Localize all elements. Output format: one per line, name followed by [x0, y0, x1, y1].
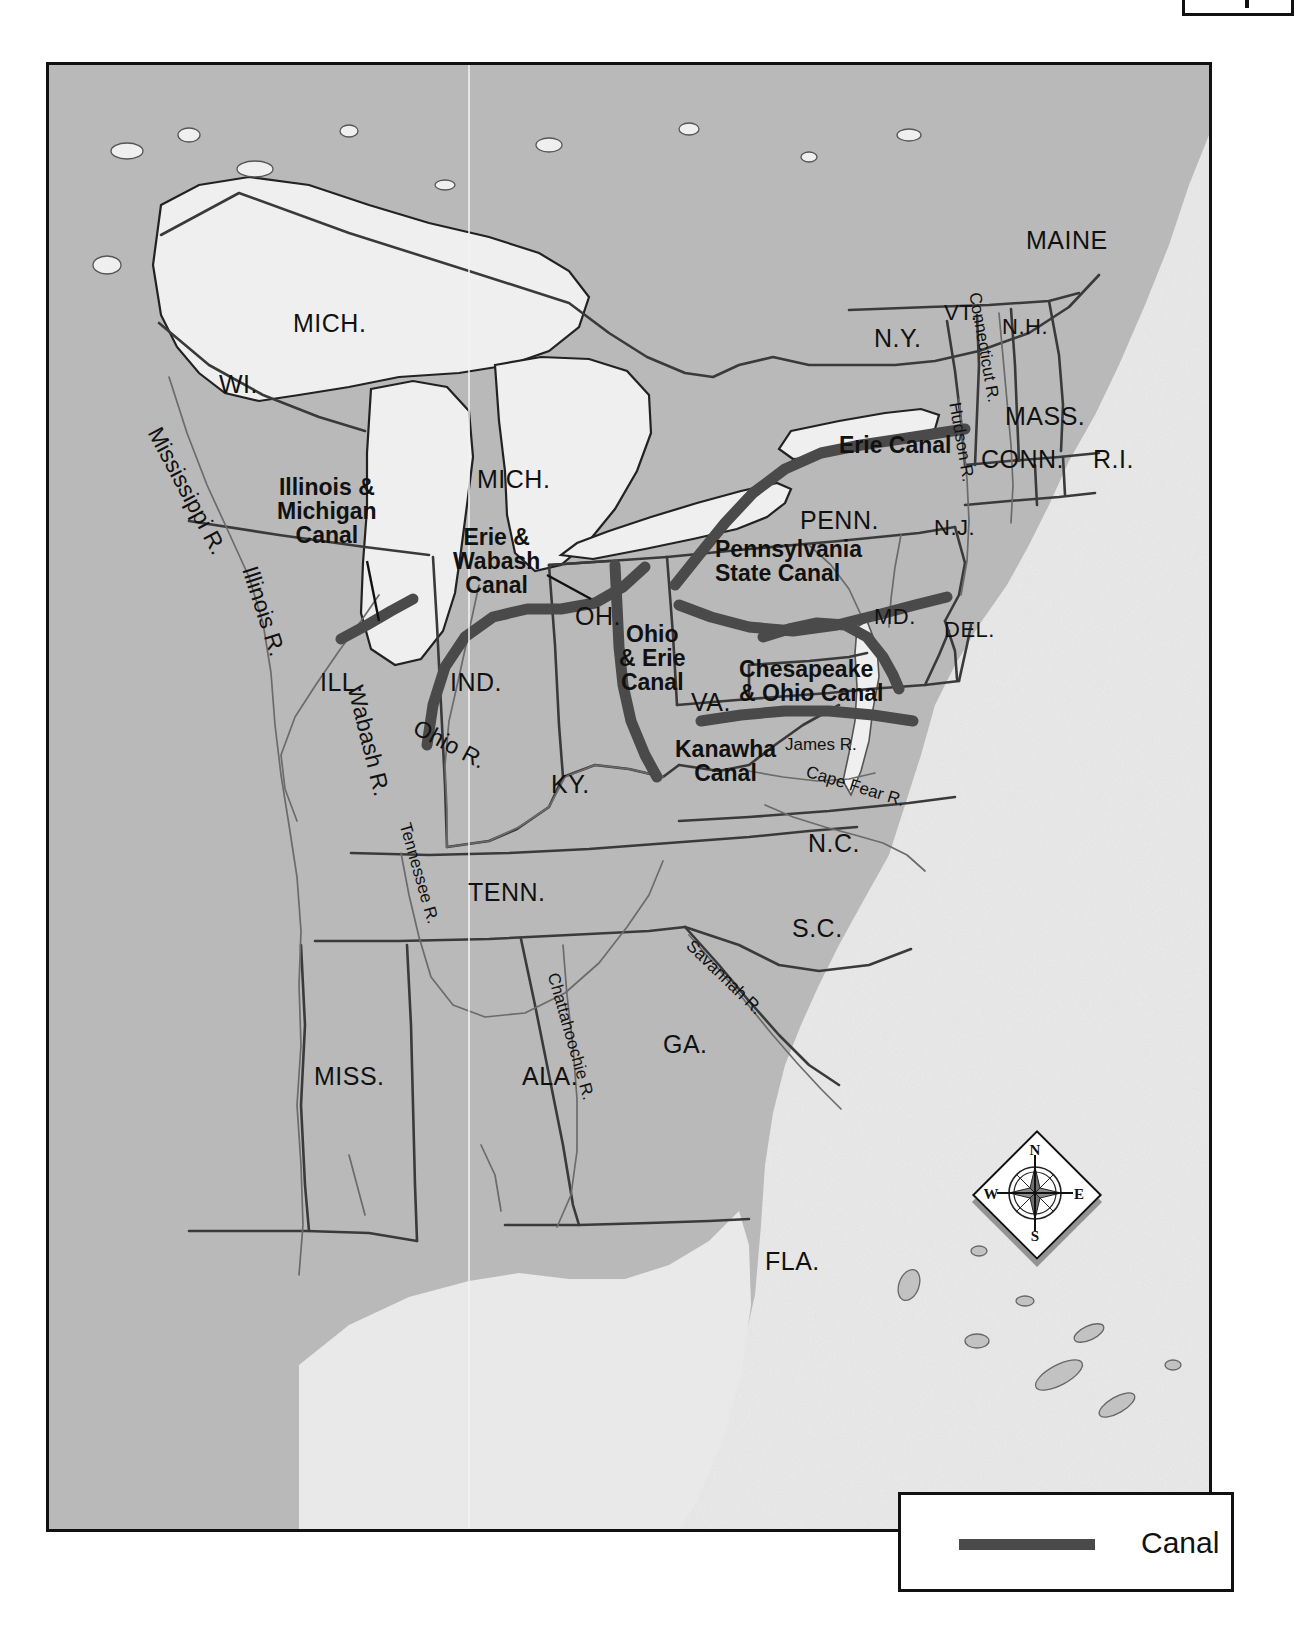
state-label-sc: S.C. — [792, 915, 843, 941]
state-label-tenn: TENN. — [468, 879, 546, 905]
state-label-wi: WI. — [219, 371, 258, 397]
state-label-mich-up: MICH. — [293, 310, 366, 336]
map-legend: Canal — [898, 1492, 1234, 1592]
top-partial-box-tick — [1245, 0, 1249, 8]
state-label-ind: IND. — [450, 669, 502, 695]
top-partial-box — [1182, 0, 1294, 16]
canal-label-illinois-michigan: Illinois &MichiganCanal — [277, 475, 377, 547]
compass-label-north: N — [1030, 1142, 1041, 1158]
state-label-conn: CONN. — [981, 446, 1064, 472]
state-label-oh: OH. — [575, 603, 621, 629]
state-label-fla: FLA. — [765, 1248, 820, 1274]
map-canvas — [49, 65, 1209, 1529]
state-label-nj: N.J. — [934, 516, 975, 539]
canal-label-kanawha: KanawhaCanal — [675, 737, 776, 785]
canal-label-chesapeake-ohio: Chesapeake& Ohio Canal — [739, 657, 883, 705]
compass-label-south: S — [1031, 1228, 1039, 1244]
map-frame: MAINE VT. N.H. N.Y. MASS. CONN. R.I. MIC… — [46, 62, 1212, 1532]
state-label-mass: MASS. — [1005, 403, 1085, 429]
state-label-miss: MISS. — [314, 1063, 385, 1089]
compass-graphic: N S E W — [979, 1137, 1103, 1261]
state-label-del: DEL. — [944, 618, 995, 641]
state-label-penn: PENN. — [800, 507, 879, 533]
state-label-ky: KY. — [551, 771, 590, 797]
state-label-ga: GA. — [663, 1031, 708, 1057]
legend-label-canal: Canal — [1141, 1526, 1219, 1560]
compass-label-east: E — [1074, 1186, 1084, 1202]
state-label-mich-lp: MICH. — [477, 466, 550, 492]
canal-label-erie: Erie Canal — [839, 433, 952, 457]
state-label-ri: R.I. — [1093, 446, 1134, 472]
legend-swatch-canal — [959, 1539, 1095, 1550]
state-label-md: MD. — [874, 605, 916, 628]
state-label-nh: N.H. — [1002, 315, 1048, 338]
river-label-james: James R. — [785, 736, 857, 754]
compass-rose: N S E W — [979, 1137, 1103, 1261]
canal-label-erie-wabash: Erie &WabashCanal — [453, 525, 540, 597]
compass-label-west: W — [984, 1186, 999, 1202]
state-label-nc: N.C. — [808, 830, 860, 856]
state-label-ny: N.Y. — [874, 325, 921, 351]
state-label-va: VA. — [691, 689, 731, 715]
state-label-maine: MAINE — [1026, 227, 1108, 253]
canal-label-pennsylvania-state: PennsylvaniaState Canal — [715, 537, 862, 585]
canal-label-ohio-erie: Ohio& ErieCanal — [619, 622, 685, 694]
